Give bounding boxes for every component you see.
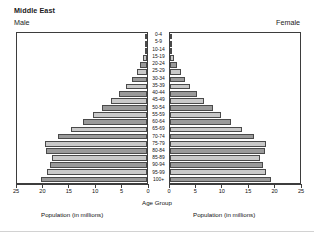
bar[interactable]: [137, 69, 147, 75]
bar[interactable]: [93, 112, 147, 118]
bar[interactable]: [170, 55, 174, 61]
age-group-label: 95-99: [148, 170, 169, 177]
bar-row: [170, 76, 300, 83]
bar[interactable]: [170, 177, 271, 183]
age-group-label: 85-89: [148, 155, 169, 162]
bar-row: [170, 33, 300, 40]
bar-row: [170, 133, 300, 140]
bar-row: [17, 54, 147, 61]
bar-row: [17, 76, 147, 83]
bar[interactable]: [170, 105, 213, 111]
bar-row: [170, 112, 300, 119]
bar[interactable]: [170, 77, 185, 83]
bar-row: [17, 119, 147, 126]
bar-row: [17, 126, 147, 133]
male-axis-title: Population (in millions): [41, 211, 103, 218]
bar[interactable]: [170, 155, 260, 161]
age-group-label: 10-14: [148, 47, 169, 54]
bar[interactable]: [102, 105, 147, 111]
bar[interactable]: [170, 69, 181, 75]
bar-row: [170, 54, 300, 61]
age-group-label: 65-69: [148, 126, 169, 133]
bar[interactable]: [111, 98, 147, 104]
bar[interactable]: [58, 134, 147, 140]
bar-row: [17, 140, 147, 147]
age-group-label: 15-19: [148, 54, 169, 61]
bar[interactable]: [143, 55, 147, 61]
bar[interactable]: [170, 127, 242, 133]
male-plot-panel: [16, 32, 148, 184]
bar[interactable]: [52, 155, 147, 161]
axis-tick-label: 25: [13, 189, 19, 195]
bar-row: [170, 147, 300, 154]
bar-row: [170, 97, 300, 104]
age-group-label: 80-84: [148, 148, 169, 155]
age-group-label: 5-9: [148, 39, 169, 46]
bar[interactable]: [170, 148, 265, 154]
bar-row: [170, 162, 300, 169]
age-group-label: 20-24: [148, 61, 169, 68]
bar[interactable]: [145, 34, 147, 40]
bar-row: [17, 47, 147, 54]
bar[interactable]: [126, 84, 147, 90]
age-group-axis-title: Age Group: [0, 199, 314, 206]
axis-tick-label: 25: [298, 189, 304, 195]
bar[interactable]: [170, 112, 221, 118]
age-group-label: 60-64: [148, 119, 169, 126]
bar[interactable]: [170, 141, 266, 147]
bar[interactable]: [41, 177, 147, 183]
bar[interactable]: [170, 119, 231, 125]
bar[interactable]: [170, 84, 190, 90]
bar[interactable]: [145, 48, 147, 54]
bar[interactable]: [170, 169, 266, 175]
bar[interactable]: [132, 77, 147, 83]
age-group-label: 35-39: [148, 83, 169, 90]
bar-row: [17, 90, 147, 97]
bar[interactable]: [170, 98, 204, 104]
bar[interactable]: [170, 134, 254, 140]
age-group-label: 50-54: [148, 104, 169, 111]
bar-row: [17, 40, 147, 47]
bar[interactable]: [119, 91, 147, 97]
bar[interactable]: [71, 127, 147, 133]
age-group-label: 55-59: [148, 112, 169, 119]
bar[interactable]: [170, 91, 197, 97]
axis-tick-label: 0: [146, 189, 149, 195]
bar[interactable]: [170, 162, 263, 168]
axis-tick-label: 5: [194, 189, 197, 195]
female-x-axis: 0510152025: [169, 184, 301, 188]
bar[interactable]: [170, 62, 177, 68]
page-divider: [0, 231, 314, 232]
age-group-axis: 100+95-9990-9485-8980-8475-7970-7465-696…: [148, 32, 169, 184]
age-group-label: 0-4: [148, 32, 169, 39]
axis-tick-label: 15: [66, 189, 72, 195]
bar[interactable]: [140, 62, 147, 68]
bar[interactable]: [170, 48, 172, 54]
bar[interactable]: [47, 169, 147, 175]
male-axis-line: [16, 184, 148, 185]
bar[interactable]: [170, 41, 172, 47]
age-group-label: 90-94: [148, 162, 169, 169]
bar-row: [17, 62, 147, 69]
bar-row: [17, 69, 147, 76]
bar-row: [17, 162, 147, 169]
age-group-label: 40-44: [148, 90, 169, 97]
bar-row: [170, 154, 300, 161]
bar-row: [17, 104, 147, 111]
bar[interactable]: [83, 119, 147, 125]
bar-row: [17, 33, 147, 40]
bar-row: [170, 176, 300, 183]
bar-row: [170, 47, 300, 54]
bar-row: [17, 147, 147, 154]
female-axis-title: Population (in millions): [193, 211, 255, 218]
age-group-label: 100+: [148, 177, 169, 184]
bar[interactable]: [145, 41, 147, 47]
age-group-label: 70-74: [148, 133, 169, 140]
axis-tick-label: 15: [245, 189, 251, 195]
bar[interactable]: [50, 162, 147, 168]
male-x-axis: 2520151050: [16, 184, 148, 188]
bar[interactable]: [45, 141, 147, 147]
axis-tick-label: 0: [167, 189, 170, 195]
bar[interactable]: [170, 34, 172, 40]
bar[interactable]: [46, 148, 147, 154]
